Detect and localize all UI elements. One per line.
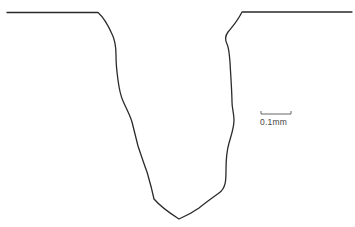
groove-profile-figure: 0.1mm	[0, 0, 355, 227]
groove-profile-outline	[7, 12, 352, 219]
scale-bar-line	[261, 111, 291, 114]
profile-drawing	[0, 0, 355, 227]
scale-bar-label: 0.1mm	[260, 117, 287, 127]
